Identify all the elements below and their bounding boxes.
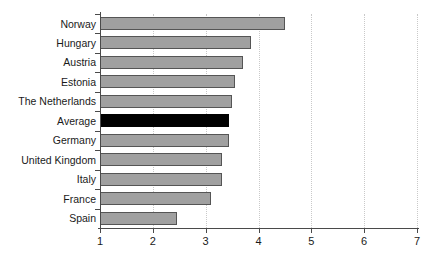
x-axis-tick-label: 6	[352, 235, 376, 248]
y-axis-tick	[95, 131, 100, 132]
bar-average	[100, 114, 229, 127]
bar-estonia	[100, 75, 235, 88]
bar-spain	[100, 212, 177, 225]
x-axis-tick-label: 2	[141, 235, 165, 248]
y-axis-tick	[95, 209, 100, 210]
bar-norway	[100, 17, 285, 30]
bar-chart: 1234567 NorwayHungaryAustriaEstoniaThe N…	[0, 0, 436, 259]
y-axis-line	[100, 12, 101, 230]
x-axis-tick	[417, 228, 418, 233]
x-axis-tick	[259, 228, 260, 233]
x-axis-tick-label: 4	[247, 235, 271, 248]
category-label-france: France	[0, 193, 96, 205]
gridline	[417, 14, 418, 228]
x-axis-tick	[311, 228, 312, 233]
gridline	[259, 14, 260, 228]
category-label-germany: Germany	[0, 134, 96, 146]
y-axis-tick	[95, 170, 100, 171]
category-label-estonia: Estonia	[0, 76, 96, 88]
gridline	[311, 14, 312, 228]
plot-area	[100, 14, 417, 228]
bar-hungary	[100, 36, 251, 49]
bar-austria	[100, 56, 243, 69]
x-axis-tick-label: 3	[194, 235, 218, 248]
bar-italy	[100, 173, 222, 186]
y-axis-tick	[95, 53, 100, 54]
y-axis-tick	[95, 33, 100, 34]
category-label-spain: Spain	[0, 212, 96, 224]
x-axis-tick-label: 5	[299, 235, 323, 248]
category-label-average: Average	[0, 115, 96, 127]
category-label-united-kingdom: United Kingdom	[0, 154, 96, 166]
y-axis-tick	[95, 189, 100, 190]
x-axis-tick	[206, 228, 207, 233]
category-label-italy: Italy	[0, 173, 96, 185]
x-axis-tick	[153, 228, 154, 233]
bar-france	[100, 192, 211, 205]
bar-germany	[100, 134, 229, 147]
y-axis-tick	[95, 72, 100, 73]
gridline	[364, 14, 365, 228]
x-axis-tick	[100, 228, 101, 233]
y-axis-tick	[95, 14, 100, 15]
category-label-the-netherlands: The Netherlands	[0, 95, 96, 107]
bar-the-netherlands	[100, 95, 232, 108]
category-label-austria: Austria	[0, 56, 96, 68]
x-axis-tick-label: 7	[405, 235, 429, 248]
bar-united-kingdom	[100, 153, 222, 166]
y-axis-tick	[95, 111, 100, 112]
y-axis-tick	[95, 92, 100, 93]
category-label-norway: Norway	[0, 18, 96, 30]
x-axis-tick-label: 1	[88, 235, 112, 248]
x-axis-tick	[364, 228, 365, 233]
y-axis-tick	[95, 150, 100, 151]
category-label-hungary: Hungary	[0, 37, 96, 49]
